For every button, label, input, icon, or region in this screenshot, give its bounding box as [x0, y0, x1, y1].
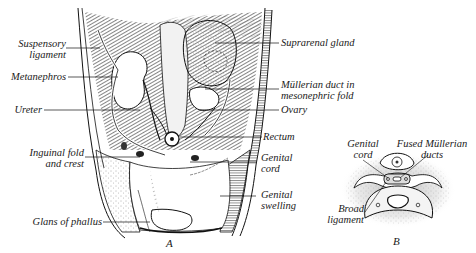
label-line: Rectum [263, 131, 295, 142]
label-line: swelling [261, 200, 296, 211]
label-line: Genital [261, 152, 293, 163]
panel-a-letter: A [166, 238, 173, 249]
label-line: Suprarenal gland [281, 37, 354, 48]
label-line: cord [261, 163, 293, 174]
label-line: cord [340, 149, 386, 160]
label-line: Genital [340, 138, 386, 149]
label-line: Inguinal fold [29, 147, 84, 158]
label-genital-swelling: Genital swelling [261, 189, 296, 211]
label-genital-cord-a: Genital cord [261, 152, 293, 174]
label-ovary: Ovary [281, 104, 307, 115]
label-suspensory-ligament: Suspensory ligament [18, 38, 66, 60]
label-line: Glans of phallus [33, 216, 102, 227]
label-line: Fused Müllerian [390, 138, 474, 149]
label-line: Genital [261, 189, 296, 200]
label-line: Ovary [281, 104, 307, 115]
label-glans-of-phallus: Glans of phallus [33, 216, 102, 227]
label-line: ligament [327, 214, 364, 225]
label-suprarenal-gland: Suprarenal gland [281, 37, 354, 48]
label-line: Ureter [14, 104, 42, 115]
label-line: Broad [327, 203, 364, 214]
label-fused-mullerian-ducts: Fused Müllerian ducts [390, 138, 474, 160]
label-line: ligament [18, 49, 66, 60]
label-line: ducts [390, 149, 474, 160]
label-rectum: Rectum [263, 131, 295, 142]
label-line: Metanephros [11, 71, 66, 82]
label-line: and crest [29, 158, 84, 169]
label-metanephros: Metanephros [11, 71, 66, 82]
label-ureter: Ureter [14, 104, 42, 115]
label-broad-ligament: Broad ligament [327, 203, 364, 225]
panel-a-drawing [78, 8, 272, 238]
label-mullerian-duct-in-mesonephric-fold: Müllerian duct in mesonephric fold [281, 79, 355, 101]
label-line: Suspensory [18, 38, 66, 49]
label-genital-cord-b: Genital cord [340, 138, 386, 160]
label-line: mesonephric fold [281, 90, 355, 101]
panel-b-letter: B [393, 236, 400, 247]
label-line: Müllerian duct in [281, 79, 355, 90]
label-inguinal-fold-and-crest: Inguinal fold and crest [29, 147, 84, 169]
